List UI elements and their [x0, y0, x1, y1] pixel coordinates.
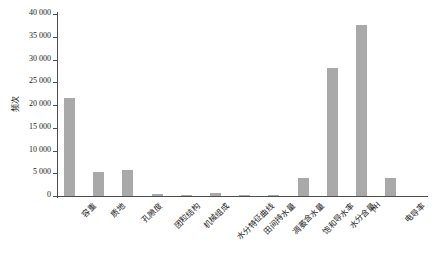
bar	[93, 172, 104, 196]
y-tick-mark	[53, 105, 57, 106]
x-tick-label: 孔隙度	[139, 200, 164, 225]
x-tick-label: 凋萎含水量	[290, 200, 326, 236]
plot-area: 05 00010 00015 00020 00025 00030 00035 0…	[57, 14, 425, 196]
y-tick-mark	[53, 151, 57, 152]
bar	[64, 98, 75, 196]
x-tick-label: 质地	[108, 200, 127, 219]
bar	[298, 178, 309, 196]
x-tick-label: 容重	[79, 200, 98, 219]
y-tick-label: 5 000	[33, 167, 51, 176]
y-tick-mark	[53, 14, 57, 15]
y-tick-label: 40 000	[29, 8, 51, 17]
bar	[181, 195, 192, 196]
x-tick-label: 电导率	[402, 200, 427, 225]
y-tick-mark	[53, 60, 57, 61]
x-tick-label: 机械组成	[200, 200, 230, 230]
bar	[268, 195, 279, 196]
bar-chart: 频次 05 00010 00015 00020 00025 00030 0003…	[0, 0, 433, 260]
x-axis-line	[57, 196, 428, 197]
y-tick-label: 25 000	[29, 76, 51, 85]
y-tick-mark	[53, 128, 57, 129]
bar	[210, 193, 221, 196]
y-tick-label: 15 000	[29, 122, 51, 131]
bar	[356, 25, 367, 196]
y-tick-label: 35 000	[29, 31, 51, 40]
bar	[122, 170, 133, 196]
y-tick-mark	[53, 82, 57, 83]
y-tick-mark	[53, 196, 57, 197]
y-axis-label: 频次	[9, 74, 20, 134]
bar	[152, 194, 163, 196]
bar	[239, 195, 250, 196]
y-tick-mark	[53, 37, 57, 38]
y-tick-label: 0	[47, 190, 51, 199]
y-tick-label: 30 000	[29, 54, 51, 63]
y-tick-mark	[53, 173, 57, 174]
x-tick-label: 团粒结构	[171, 200, 201, 230]
y-tick-label: 20 000	[29, 99, 51, 108]
y-tick-label: 10 000	[29, 145, 51, 154]
bar	[385, 178, 396, 196]
bar	[327, 68, 338, 196]
